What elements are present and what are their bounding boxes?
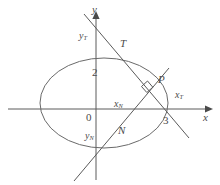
tangent-line-label: T	[120, 38, 126, 49]
xN-sub: N	[118, 102, 122, 109]
figure-canvas	[0, 0, 220, 185]
ellipse-curve	[40, 58, 168, 148]
ellipse-tangent-normal-figure: y x 0 2 3 yT xT yN xN T N P	[0, 0, 220, 185]
y-axis-label: y	[92, 4, 97, 15]
normal-line-label: N	[118, 125, 125, 136]
x-tick-3-label: 3	[163, 115, 169, 126]
yT-sub: T	[83, 34, 87, 41]
point-P-label: P	[158, 74, 165, 85]
x-axis-label: x	[203, 112, 208, 123]
yN-sub: N	[89, 134, 93, 141]
right-angle-icon	[142, 81, 153, 93]
origin-label: 0	[86, 112, 92, 123]
y-tick-2-label: 2	[92, 67, 98, 78]
x-intercept-normal-label: xN	[114, 99, 123, 110]
xT-sub: T	[179, 93, 183, 100]
y-intercept-tangent-label: yT	[79, 31, 87, 42]
x-axis	[8, 105, 213, 112]
y-intercept-normal-label: yN	[85, 131, 94, 142]
x-intercept-tangent-label: xT	[175, 90, 183, 101]
tangent-line	[84, 14, 189, 138]
